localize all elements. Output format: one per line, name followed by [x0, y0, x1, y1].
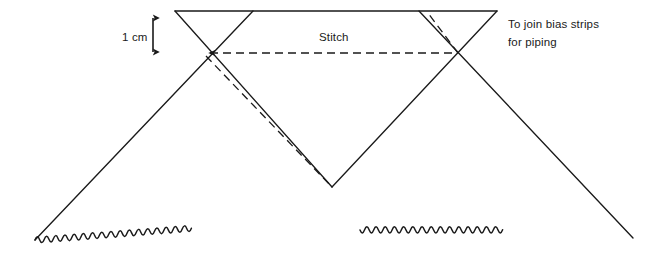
bias-strip-diagram: 1 cm Stitch To join bias strips for pipi… [0, 0, 668, 259]
stitch-label: Stitch [319, 31, 349, 43]
instruction-note-line-2: for piping [508, 33, 599, 51]
bottom-left-pinked-edge [35, 226, 191, 243]
left-strip-long-diagonal [35, 11, 253, 240]
instruction-note-line-1: To join bias strips [508, 15, 599, 33]
right-strip-edge-down-left [332, 11, 497, 187]
instruction-note: To join bias strips for piping [508, 15, 599, 51]
measurement-label: 1 cm [122, 31, 148, 43]
bottom-right-pinked-edge [360, 227, 503, 233]
fold-dashed-diagonal-lower [206, 56, 332, 187]
left-strip-edge-down-right [175, 11, 332, 187]
fold-dashed-diagonal-upper [428, 13, 458, 53]
